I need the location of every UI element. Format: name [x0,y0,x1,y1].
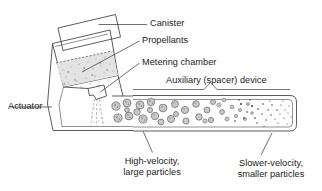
leader-slower-velocity [261,133,272,155]
label-slower-velocity: Slower-velocity, smaller particles [223,158,319,180]
label-high-velocity-line1: High-velocity, [104,156,200,167]
fine-mist-particles [234,99,291,126]
label-metering-chamber: Metering chamber [142,57,216,68]
label-high-velocity: High-velocity, large particles [104,156,200,178]
label-actuator: Actuator [8,101,42,112]
plume-droplets [92,107,104,123]
metering-chamber-shape [88,85,107,100]
label-canister: Canister [150,18,184,29]
label-propellants: Propellants [142,35,188,46]
label-high-velocity-line2: large particles [104,167,200,178]
large-particles [112,98,225,125]
canister-shape [58,15,121,51]
spray-plume [91,99,104,126]
leader-high-velocity [143,131,153,153]
label-slower-velocity-line2: smaller particles [223,169,319,180]
label-auxiliary-device: Auxiliary (spacer) device [166,75,267,86]
inhaler-spacer-diagram: Canister Propellants Metering chamber Au… [0,0,322,191]
label-slower-velocity-line1: Slower-velocity, [223,158,319,169]
